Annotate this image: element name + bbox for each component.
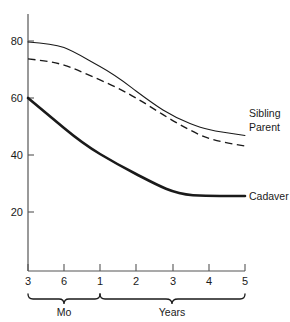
series-line-cadaver [28,98,245,196]
x-tick-label-3mo: 3 [25,275,31,287]
brace-months [28,294,100,304]
y-tick-label-40: 40 [11,149,23,161]
series-label-parent: Parent [249,121,280,133]
chart-figure: 80 60 40 20 3 6 1 2 3 4 5 [0,0,290,322]
y-tick-label-80: 80 [11,35,23,47]
y-axis-ticks [28,41,34,212]
y-tick-label-20: 20 [11,206,23,218]
series-labels: Sibling Parent Cadaver [249,107,289,202]
series-line-parent [28,59,245,146]
y-tick-label-60: 60 [11,92,23,104]
x-tick-label-5yr: 5 [242,275,248,287]
group-label-years: Years [159,306,185,318]
series-label-sibling: Sibling [249,107,281,119]
group-label-months: Mo [57,306,72,318]
x-tick-label-3yr: 3 [170,275,176,287]
x-tick-label-4yr: 4 [206,275,212,287]
x-axis-tick-labels: 3 6 1 2 3 4 5 [25,275,248,287]
chart-canvas: 80 60 40 20 3 6 1 2 3 4 5 [0,0,290,322]
x-tick-label-1yr: 1 [97,275,103,287]
axis-group-labels: Mo Years [57,306,186,318]
y-axis-tick-labels: 80 60 40 20 [11,35,23,218]
x-tick-label-6mo: 6 [61,275,67,287]
series-line-sibling [28,42,245,136]
brace-years [100,294,245,304]
x-tick-label-2yr: 2 [133,275,139,287]
axes [28,14,245,271]
series-label-cadaver: Cadaver [249,190,289,202]
x-axis-ticks [28,264,245,271]
axis-group-braces [28,294,245,304]
